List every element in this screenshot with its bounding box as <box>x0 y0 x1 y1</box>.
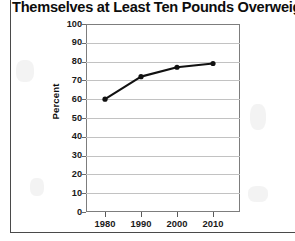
gridline-50 <box>86 118 240 119</box>
y-tick-label-70: 70 <box>56 76 82 85</box>
scan-noise <box>30 178 44 196</box>
gridline-10 <box>86 193 240 194</box>
y-tick-mark-70 <box>82 80 86 81</box>
y-tick-label-0: 0 <box>56 208 82 217</box>
y-tick-mark-100 <box>82 24 86 25</box>
gridline-60 <box>86 99 240 100</box>
scan-noise <box>250 104 266 130</box>
chart-title-line-2: Themselves at Least Ten Pounds Overweigh… <box>12 0 295 15</box>
gridline-40 <box>86 137 240 138</box>
x-tick-mark-1980 <box>105 212 106 217</box>
y-tick-mark-60 <box>82 99 86 100</box>
y-tick-mark-10 <box>82 193 86 194</box>
y-tick-label-30: 30 <box>56 151 82 160</box>
x-tick-mark-1990 <box>141 212 142 217</box>
y-tick-label-20: 20 <box>56 170 82 179</box>
scan-noise <box>248 186 268 202</box>
chart-figure: Percentage of Americans Who Consider The… <box>0 0 295 241</box>
y-tick-mark-90 <box>82 43 86 44</box>
page-border-bottom <box>10 232 295 233</box>
page-border-left <box>10 0 11 233</box>
y-tick-label-100: 100 <box>56 20 82 29</box>
gridline-20 <box>86 174 240 175</box>
y-tick-mark-20 <box>82 174 86 175</box>
y-tick-label-90: 90 <box>56 38 82 47</box>
x-tick-label-2010: 2010 <box>193 219 233 229</box>
y-tick-mark-30 <box>82 156 86 157</box>
gridline-70 <box>86 80 240 81</box>
x-tick-label-2000: 2000 <box>157 219 197 229</box>
x-tick-label-1990: 1990 <box>121 219 161 229</box>
y-tick-mark-40 <box>82 137 86 138</box>
chart-title: Percentage of Americans Who Consider The… <box>12 0 295 15</box>
y-tick-label-60: 60 <box>56 95 82 104</box>
x-tick-mark-2000 <box>177 212 178 217</box>
y-tick-label-40: 40 <box>56 132 82 141</box>
y-tick-mark-0 <box>82 212 86 213</box>
gridline-80 <box>86 62 240 63</box>
y-tick-mark-50 <box>82 118 86 119</box>
y-tick-label-50: 50 <box>56 114 82 123</box>
y-tick-label-10: 10 <box>56 189 82 198</box>
scan-noise <box>16 60 34 82</box>
gridline-30 <box>86 156 240 157</box>
y-tick-label-80: 80 <box>56 57 82 66</box>
y-tick-mark-80 <box>82 62 86 63</box>
x-tick-mark-2010 <box>213 212 214 217</box>
x-tick-label-1980: 1980 <box>85 219 125 229</box>
gridline-90 <box>86 43 240 44</box>
